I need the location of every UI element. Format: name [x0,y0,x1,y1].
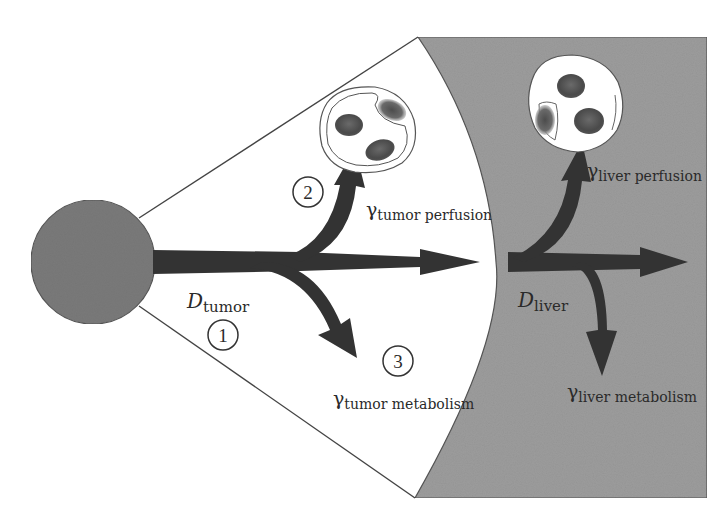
label-gamma-tumor-perfusion: γtumor perfusion [366,198,492,223]
label-d-tumor: Dtumor [186,289,250,316]
liver-cell-icon [529,55,623,152]
tumor-cell-icon [320,87,416,173]
marker-2-label: 2 [303,182,313,203]
tumor-metabolism-arrow [250,262,357,358]
tumor-mass-circle [31,200,155,324]
marker-3: 3 [383,346,413,376]
marker-1-label: 1 [218,325,228,346]
marker-2: 2 [293,177,323,207]
diagram-canvas: 1 2 3 Dtumor γtumor perfusion γtumor met… [0,0,728,522]
label-gamma-tumor-metabolism: γtumor metabolism [333,387,474,412]
marker-3-label: 3 [393,351,403,372]
marker-1: 1 [208,320,238,350]
